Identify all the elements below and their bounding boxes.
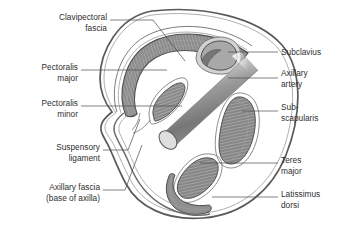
label-suspensory-ligament-line2: ligament	[69, 153, 101, 163]
label-axillary-fascia-line1: Axillary fascia	[49, 182, 100, 192]
label-axillary-artery-line2: artery	[281, 79, 303, 89]
label-teres-major-line2: major	[281, 166, 302, 176]
label-pectoralis-minor-line1: Pectoralis	[42, 98, 78, 108]
label-pectoralis-major-line2: major	[57, 73, 78, 83]
label-group-left: Clavipectoral fascia Pectoralis major Pe…	[42, 12, 108, 203]
label-clavipectoral-fascia-line2: fascia	[85, 23, 107, 33]
label-axillary-fascia-line2: (base of axilla)	[46, 193, 100, 203]
label-subclavius-line1: Subclavius	[281, 47, 321, 57]
label-clavipectoral-fascia-line1: Clavipectoral	[59, 12, 107, 22]
label-pectoralis-minor-line2: minor	[57, 109, 78, 119]
anatomical-diagram: Clavipectoral fascia Pectoralis major Pe…	[0, 0, 349, 228]
label-pectoralis-major-line1: Pectoralis	[42, 62, 78, 72]
label-subscapularis-line2: scapularis	[281, 113, 318, 123]
axilla-cross-section-svg: Clavipectoral fascia Pectoralis major Pe…	[0, 0, 349, 228]
label-axillary-artery-line1: Axillary	[281, 68, 309, 78]
label-latissimus-dorsi-line1: Latissimus	[281, 189, 320, 199]
label-teres-major-line1: Teres	[281, 155, 301, 165]
label-suspensory-ligament-line1: Suspensory	[56, 142, 101, 152]
label-subscapularis-line1: Sub-	[281, 102, 299, 112]
label-latissimus-dorsi-line2: dorsi	[281, 200, 299, 210]
